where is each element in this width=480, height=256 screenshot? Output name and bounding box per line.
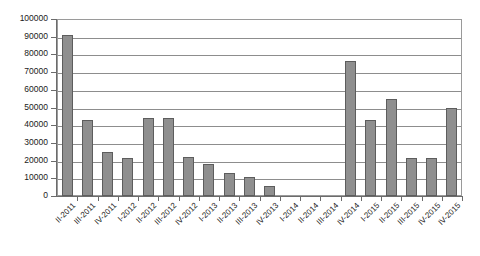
- x-axis-tick-mark: [260, 196, 261, 201]
- x-axis-tick-mark: [77, 196, 78, 201]
- bar: [163, 118, 174, 196]
- x-axis-tick-mark: [219, 196, 220, 201]
- bar: [446, 108, 457, 197]
- x-axis-tick-mark: [401, 196, 402, 201]
- bar-chart: 0100002000030000400005000060000700008000…: [0, 0, 480, 256]
- y-axis-tick-label: 30000: [24, 138, 48, 147]
- x-axis-tick-mark: [158, 196, 159, 201]
- x-axis-tick-mark: [442, 196, 443, 201]
- x-axis-tick-mark: [118, 196, 119, 201]
- bar: [102, 152, 113, 196]
- bars-layer: [57, 19, 462, 196]
- bar: [406, 158, 417, 196]
- y-axis-tick-label: 10000: [24, 173, 48, 182]
- x-axis-tick-mark: [462, 196, 463, 201]
- bar: [264, 186, 275, 196]
- bar: [386, 99, 397, 196]
- y-axis-tick-label: 20000: [24, 156, 48, 165]
- bar: [122, 158, 133, 196]
- x-axis-tick-mark: [320, 196, 321, 201]
- bar: [345, 61, 356, 196]
- y-axis-line: [56, 19, 57, 197]
- y-axis-tick-label: 50000: [24, 103, 48, 112]
- x-axis-tick-mark: [381, 196, 382, 201]
- x-axis-tick-mark: [138, 196, 139, 201]
- x-axis-tick-mark: [300, 196, 301, 201]
- x-axis-tick-mark: [98, 196, 99, 201]
- bar: [365, 120, 376, 196]
- y-axis-tick-label: 60000: [24, 85, 48, 94]
- bar: [224, 173, 235, 196]
- bar: [82, 120, 93, 196]
- y-axis-tick-label: 0: [43, 191, 48, 200]
- y-axis-tick-label: 90000: [24, 32, 48, 41]
- bar: [426, 158, 437, 196]
- bar: [183, 157, 194, 196]
- y-axis-tick-label: 80000: [24, 49, 48, 58]
- bar: [143, 118, 154, 196]
- x-axis-tick-mark: [361, 196, 362, 201]
- y-axis-tick-label: 40000: [24, 120, 48, 129]
- x-axis-tick-mark: [239, 196, 240, 201]
- y-axis-tick-label: 70000: [24, 67, 48, 76]
- bar: [62, 35, 73, 196]
- x-axis-tick-mark: [199, 196, 200, 201]
- x-axis-tick-mark: [280, 196, 281, 201]
- x-axis-tick-mark: [422, 196, 423, 201]
- x-axis-tick-mark: [179, 196, 180, 201]
- bar: [203, 164, 214, 196]
- x-axis-tick-mark: [341, 196, 342, 201]
- y-axis-tick-label: 100000: [20, 14, 48, 23]
- bar: [244, 177, 255, 196]
